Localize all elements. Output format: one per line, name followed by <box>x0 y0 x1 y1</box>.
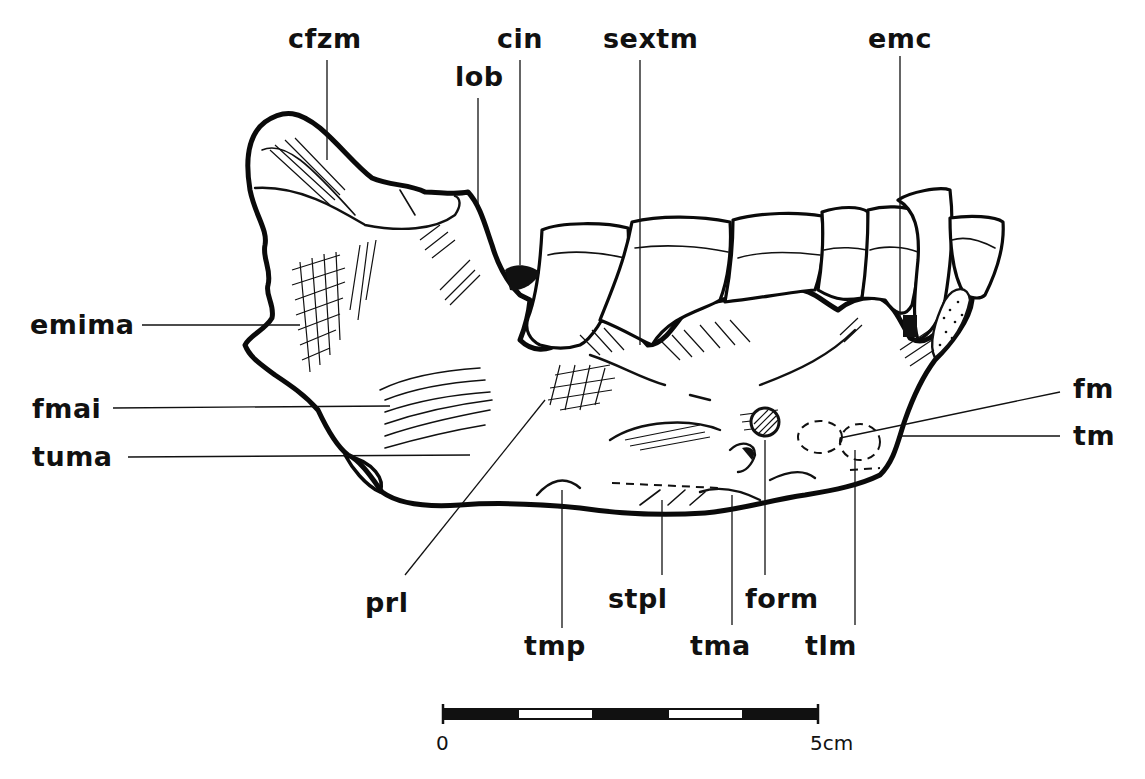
tooth-premolar-1 <box>862 207 920 313</box>
leader-line-fmai <box>113 406 390 408</box>
scale-bar-end-label: 5cm <box>810 731 853 755</box>
label-tuma: tuma <box>32 441 112 472</box>
tooth-premolar-2 <box>818 208 869 300</box>
scale-bar-segment <box>593 709 668 719</box>
fm-dashed-ellipse <box>798 421 842 453</box>
crosshatch-emima <box>292 252 345 372</box>
scale-bar-segments <box>443 709 818 719</box>
label-lob: lob <box>455 61 504 92</box>
tm-dashed-ellipse <box>840 424 880 460</box>
label-tmp: tmp <box>524 630 586 661</box>
condyle-line <box>400 190 415 215</box>
accessory-foramen <box>742 447 754 460</box>
scale-bar-segment <box>443 709 518 719</box>
crosshatch-prl <box>548 365 615 410</box>
mandible-drawing <box>245 113 1003 514</box>
label-stpl: stpl <box>608 583 668 614</box>
scale-bar-segment <box>668 709 743 719</box>
label-fm: fm <box>1073 373 1114 404</box>
scale-bar: 0 5cm <box>436 704 853 755</box>
leader-line-fm <box>840 392 1060 438</box>
label-sextm: sextm <box>603 23 698 54</box>
label-tm: tm <box>1073 420 1115 451</box>
label-tma: tma <box>690 630 751 661</box>
label-cfzm: cfzm <box>288 23 362 54</box>
tooth-incisor <box>950 216 1003 298</box>
label-fmai: fmai <box>32 393 101 424</box>
label-emima: emima <box>30 309 135 340</box>
teeth <box>527 189 1004 348</box>
scale-bar-start-label: 0 <box>436 731 449 755</box>
scale-bar-segment <box>743 709 818 719</box>
label-prl: prl <box>365 587 408 618</box>
condyle-crest <box>262 148 355 215</box>
dashed-features <box>612 421 880 488</box>
label-form: form <box>745 583 819 614</box>
leader-line-tuma <box>128 455 470 457</box>
label-emc: emc <box>868 23 932 54</box>
scale-bar-segment <box>518 709 593 719</box>
label-tlm: tlm <box>805 630 857 661</box>
mandible-figure: cfzmcinlobsextmemcemimafmaitumafmtmprltm… <box>0 0 1145 779</box>
label-cin: cin <box>497 23 543 54</box>
contour-lines <box>380 330 855 505</box>
emc-dark-patch <box>903 315 917 337</box>
